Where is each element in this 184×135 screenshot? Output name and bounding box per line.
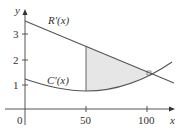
xtick-label-100: 100 bbox=[138, 114, 155, 126]
ytick-label-2: 2 bbox=[13, 54, 19, 66]
ytick-label-3: 3 bbox=[13, 28, 19, 40]
chart: 3 2 1 0 50 100 x y R'(x) C'(x) bbox=[0, 0, 184, 135]
x-axis-label: x bbox=[169, 114, 175, 126]
xtick-label-50: 50 bbox=[80, 114, 92, 126]
r-prime-label: R'(x) bbox=[47, 14, 70, 27]
origin-label: 0 bbox=[17, 114, 23, 126]
y-axis-arrow-icon bbox=[23, 9, 28, 15]
ytick-label-1: 1 bbox=[13, 79, 19, 91]
x-axis-arrow-icon bbox=[169, 107, 175, 112]
y-axis-label: y bbox=[14, 4, 20, 16]
c-prime-label: C'(x) bbox=[47, 74, 69, 87]
